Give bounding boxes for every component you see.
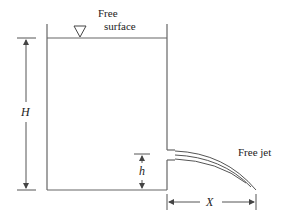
jet-distance-label: X: [205, 195, 214, 209]
free-jet-label: Free jet: [238, 146, 271, 158]
orifice-height-label: h: [139, 164, 145, 178]
free-surface-label-line2: surface: [104, 20, 136, 32]
tank: [47, 24, 175, 190]
total-height-label: H: [20, 105, 31, 119]
free-surface-label-line1: Free: [98, 7, 118, 19]
tank-diagram: Free surface H h Free jet X: [0, 0, 289, 222]
free-surface-triangle-icon: [74, 26, 86, 37]
